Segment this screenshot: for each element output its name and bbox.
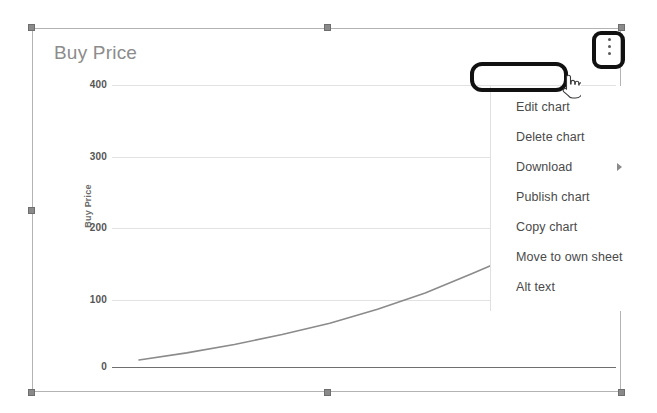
kebab-dot-3 [608, 52, 611, 55]
menu-item-label: Delete chart [516, 130, 585, 144]
menu-item-label: Alt text [516, 280, 555, 294]
chart-context-menu[interactable]: Edit chart Delete chart Download Publish… [490, 86, 657, 311]
menu-item-edit-chart[interactable]: Edit chart [491, 92, 657, 122]
menu-item-delete-chart[interactable]: Delete chart [491, 122, 657, 152]
menu-item-label: Publish chart [516, 190, 590, 204]
chevron-right-icon [617, 163, 622, 171]
menu-item-label: Copy chart [516, 220, 577, 234]
menu-item-publish-chart[interactable]: Publish chart [491, 182, 657, 212]
menu-item-label: Edit chart [516, 100, 570, 114]
menu-item-alt-text[interactable]: Alt text [491, 272, 657, 302]
more-options-icon[interactable] [604, 38, 614, 62]
kebab-dot-1 [608, 38, 611, 41]
menu-item-copy-chart[interactable]: Copy chart [491, 212, 657, 242]
kebab-dot-2 [608, 45, 611, 48]
menu-item-download[interactable]: Download [491, 152, 657, 182]
menu-item-label: Download [516, 160, 572, 174]
menu-item-move-to-own-sheet[interactable]: Move to own sheet [491, 242, 657, 272]
chart-object[interactable]: Buy Price Buy Price 400 300 200 100 0 Ed… [32, 28, 621, 392]
menu-item-label: Move to own sheet [516, 250, 623, 264]
